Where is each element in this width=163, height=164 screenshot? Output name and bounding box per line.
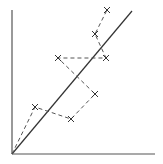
reference-diagonal-line (12, 11, 132, 154)
cross-markers (32, 7, 110, 122)
chart-area (0, 0, 163, 164)
line-plot (0, 0, 163, 164)
